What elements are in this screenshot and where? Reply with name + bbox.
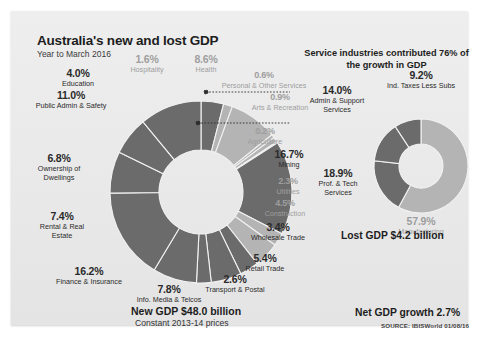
lost-gdp-total: Lost GDP $4.2 billion bbox=[341, 230, 444, 241]
slice-label-ind-taxes-less-subs: 9.2%Ind. Taxes Less Subs bbox=[373, 71, 469, 90]
slice-label-retail-trade: 5.4%Retail Trade bbox=[233, 254, 297, 273]
slice-label-construction: 4.5%Construction bbox=[254, 199, 316, 218]
service-industries-note: Service industries contributed 76% of th… bbox=[299, 48, 474, 71]
lost-gdp-donut bbox=[363, 108, 479, 224]
slice-label-wholesale-trade: 3.4%Wholesale Trade bbox=[238, 223, 318, 242]
source-credit: SOURCE: IBISWorld 01/08/16 bbox=[381, 322, 469, 329]
infographic-page: Australia's new and lost GDP Year to Mar… bbox=[0, 0, 480, 348]
slice-label-info-media-telcos: 7.8%Info. Media & Telcos bbox=[122, 285, 216, 304]
slice-label-ownership-dwellings: 6.8%Ownership of Dwellings bbox=[23, 154, 95, 183]
slice-label-prof-tech-services: 18.9%Prof. & Tech Services bbox=[305, 169, 371, 198]
page-title: Australia's new and lost GDP bbox=[37, 33, 218, 48]
slice-label-agriculture: 0.2%Agriculture bbox=[233, 127, 297, 146]
slice-label-hospitality: 1.6%Hospitality bbox=[116, 55, 178, 74]
new-gdp-total: New GDP $48.0 billion bbox=[131, 305, 241, 317]
slice-label-finance-insurance: 16.2%Finance & Insurance bbox=[39, 267, 139, 286]
slice-label-admin-support-services: 14.0%Admin & Support Services bbox=[301, 86, 373, 115]
page-subtitle: Year to March 2016 bbox=[37, 49, 111, 59]
slice-label-mining: 16.7%Mining bbox=[261, 150, 317, 169]
slice-label-public-admin-safety: 11.0%Public Admin & Safety bbox=[19, 91, 123, 110]
slice-label-rental-real-estate: 7.4%Rental & Real Estate bbox=[29, 212, 95, 241]
infographic-card: Australia's new and lost GDP Year to Mar… bbox=[11, 11, 468, 325]
new-gdp-note: Constant 2013-14 prices bbox=[135, 318, 229, 328]
net-gdp-growth: Net GDP growth 2.7% bbox=[355, 307, 460, 318]
slice-label-education: 4.0%Education bbox=[41, 69, 115, 88]
